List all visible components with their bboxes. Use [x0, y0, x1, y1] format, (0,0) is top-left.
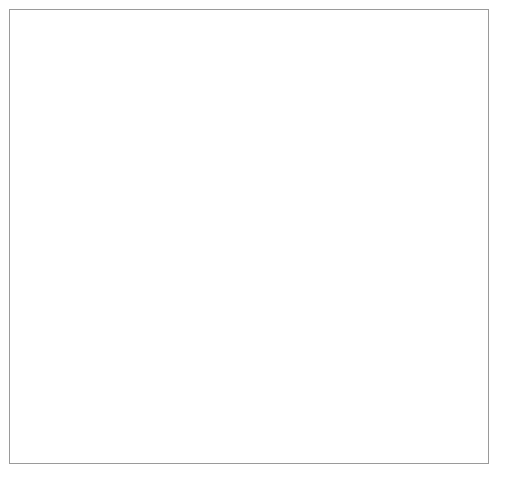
figure-border: [9, 9, 489, 464]
figure-container: 20000 15000 10000 5000 0 4000 3000 2000 …: [0, 0, 517, 480]
